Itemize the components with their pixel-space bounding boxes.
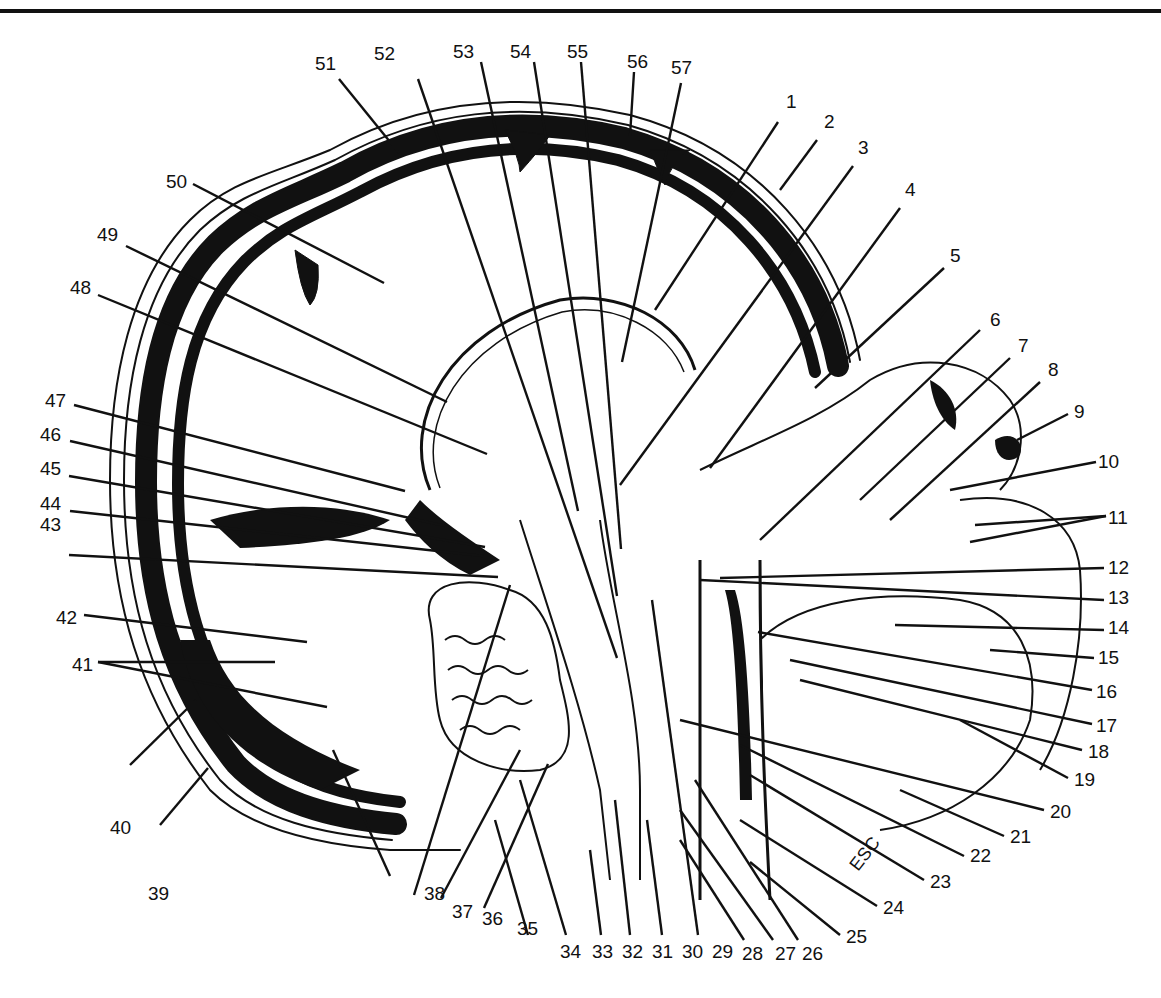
label-50: 50 <box>166 171 187 192</box>
leader-line-20 <box>680 720 1044 810</box>
label-55: 55 <box>567 41 588 62</box>
leader-line-14 <box>895 625 1104 630</box>
label-42: 42 <box>56 607 77 628</box>
label-10: 10 <box>1098 451 1119 472</box>
leader-line-6 <box>760 330 980 540</box>
label-30: 30 <box>682 941 703 962</box>
label-3: 3 <box>858 137 869 158</box>
brainstem <box>520 520 640 880</box>
label-35: 35 <box>517 918 538 939</box>
label-2: 2 <box>824 111 835 132</box>
leader-line-10 <box>950 462 1096 490</box>
label-24: 24 <box>883 897 905 918</box>
label-21: 21 <box>1010 826 1031 847</box>
label-6: 6 <box>990 309 1001 330</box>
label-8: 8 <box>1048 359 1059 380</box>
label-5: 5 <box>950 245 961 266</box>
label-11: 11 <box>1108 507 1128 528</box>
label-1: 1 <box>786 91 797 112</box>
leader-line-35 <box>484 764 548 908</box>
label-53: 53 <box>453 41 474 62</box>
label-48: 48 <box>70 277 91 298</box>
label-32: 32 <box>622 941 643 962</box>
leader-line-39 <box>160 768 208 825</box>
label-9: 9 <box>1074 401 1085 422</box>
label-39: 39 <box>148 883 169 904</box>
head-sagittal-section-drawing: 1234567891011121314151617181920212223242… <box>0 0 1161 998</box>
label-22: 22 <box>970 845 991 866</box>
label-19: 19 <box>1074 769 1095 790</box>
leader-line-37 <box>414 585 510 895</box>
label-25: 25 <box>846 926 867 947</box>
label-7: 7 <box>1018 335 1029 356</box>
leader-line-31 <box>615 800 630 935</box>
label-18: 18 <box>1088 741 1109 762</box>
leader-line-9 <box>1017 414 1068 440</box>
label-4: 4 <box>905 179 916 200</box>
label-52: 52 <box>374 43 395 64</box>
label-47: 47 <box>45 390 66 411</box>
leader-line-26 <box>695 780 798 940</box>
label-45: 45 <box>40 458 61 479</box>
label-36: 36 <box>482 908 503 929</box>
leader-line-51 <box>339 79 399 153</box>
label-15: 15 <box>1098 647 1119 668</box>
label-56: 56 <box>627 51 648 72</box>
label-54: 54 <box>510 41 532 62</box>
label-31: 31 <box>652 941 673 962</box>
label-20: 20 <box>1050 801 1071 822</box>
label-13: 13 <box>1108 587 1129 608</box>
face-dark-fill <box>725 380 1021 800</box>
leader-line-2 <box>780 140 817 190</box>
label-27: 27 <box>775 943 796 964</box>
anatomical-figure: 1234567891011121314151617181920212223242… <box>0 0 1161 998</box>
label-41: 41 <box>72 654 93 675</box>
leader-line-29 <box>652 600 698 935</box>
leader-line-52 <box>418 79 617 658</box>
label-57: 57 <box>671 57 692 78</box>
label-43: 43 <box>40 514 61 535</box>
label-37: 37 <box>452 901 473 922</box>
label-16: 16 <box>1096 681 1117 702</box>
leader-line-30 <box>647 820 662 935</box>
corpus-callosum <box>421 298 695 490</box>
leader-line-4 <box>710 208 900 468</box>
leader-line-32 <box>590 850 601 935</box>
label-40: 40 <box>110 817 131 838</box>
label-33: 33 <box>592 941 613 962</box>
top-rule-divider <box>0 9 1161 13</box>
label-26: 26 <box>802 943 823 964</box>
cerebellum <box>429 582 569 771</box>
label-29: 29 <box>712 941 733 962</box>
leader-line-43 <box>69 555 498 577</box>
label-38: 38 <box>424 883 445 904</box>
label-44: 44 <box>40 493 62 514</box>
leader-line-12 <box>720 568 1104 578</box>
label-14: 14 <box>1108 617 1130 638</box>
label-51: 51 <box>315 53 336 74</box>
label-23: 23 <box>930 871 951 892</box>
label-12: 12 <box>1108 557 1129 578</box>
leader-line-18 <box>800 680 1082 750</box>
label-17: 17 <box>1096 715 1117 736</box>
label-28: 28 <box>742 943 763 964</box>
label-46: 46 <box>40 424 61 445</box>
label-34: 34 <box>560 941 582 962</box>
leader-line-33 <box>520 780 566 935</box>
label-49: 49 <box>97 224 118 245</box>
number-labels: 1234567891011121314151617181920212223242… <box>40 41 1130 964</box>
